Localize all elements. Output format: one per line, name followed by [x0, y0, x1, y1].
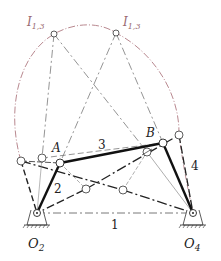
joint-alt — [38, 154, 46, 162]
link-1-label: 1 — [111, 218, 119, 232]
ic-right-label: I1,3 — [122, 15, 140, 31]
instant-center-left — [51, 31, 57, 37]
joint-alt — [82, 185, 90, 193]
joint-alt — [119, 186, 127, 194]
alt-position-coupler — [123, 190, 193, 213]
link-3-label: 3 — [98, 138, 106, 152]
construction-line — [54, 34, 147, 152]
ground-support-left — [23, 210, 50, 229]
ground-support-right — [179, 210, 206, 229]
joint-alt — [175, 131, 183, 139]
link-2-label: 2 — [54, 182, 62, 196]
alt-position-link — [21, 161, 37, 213]
ground-left-label: O2 — [28, 236, 45, 253]
alt-position-link — [179, 135, 193, 213]
construction-line — [123, 152, 147, 190]
link-4 — [163, 143, 193, 213]
ground-right-label: O4 — [184, 236, 201, 253]
instant-center-right — [113, 30, 119, 36]
alt-position-coupler — [21, 161, 123, 190]
joint-alt — [17, 157, 25, 165]
construction-line — [60, 163, 86, 189]
link-4-label: 4 — [191, 159, 199, 173]
instant-center-locus — [15, 25, 179, 161]
joint-b-label: B — [145, 126, 155, 140]
ic-left-label: I1,3 — [26, 15, 44, 31]
linkage-diagram: I1,3 I1,3 A B 3 2 4 1 O2 O4 — [0, 0, 221, 261]
joint-a — [56, 159, 64, 167]
joint-b — [159, 139, 167, 147]
construction-line — [42, 34, 54, 158]
joint-a-label: A — [51, 141, 61, 155]
